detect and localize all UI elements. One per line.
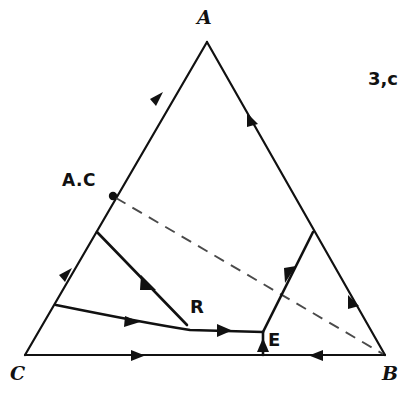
point-label-eutectic: E — [268, 331, 280, 349]
point-markers — [109, 192, 117, 200]
arrow-edge-AB-upper — [247, 113, 258, 127]
vertex-label-C: C — [10, 364, 25, 383]
arrow-boundary-cedge-mid — [124, 316, 140, 327]
ternary-phase-diagram-figure: A B C A.C R E 3,c — [0, 0, 413, 406]
direction-arrows — [59, 92, 359, 361]
arrow-base-right — [309, 350, 323, 361]
boundary-abedge-to-E — [263, 232, 313, 332]
edge-A-B — [207, 42, 385, 355]
vertex-label-A: A — [197, 8, 212, 27]
arrow-base-left — [131, 350, 145, 361]
arrow-edge-CA-lower — [59, 268, 72, 282]
phase-diagram-canvas — [0, 0, 413, 406]
arrow-boundary-R-to-E — [217, 324, 232, 337]
marker-ac-compound — [109, 192, 117, 200]
point-label-reaction: R — [190, 298, 204, 316]
vertex-label-B: B — [382, 364, 398, 383]
boundary-cedge-to-E — [56, 305, 263, 332]
triangle-outline — [25, 42, 385, 355]
arrow-edge-AC-upper — [150, 92, 163, 106]
arrow-boundary-to-R — [140, 275, 156, 290]
point-label-ac-compound: A.C — [62, 172, 96, 189]
figure-corner-caption: 3,c — [368, 70, 398, 88]
